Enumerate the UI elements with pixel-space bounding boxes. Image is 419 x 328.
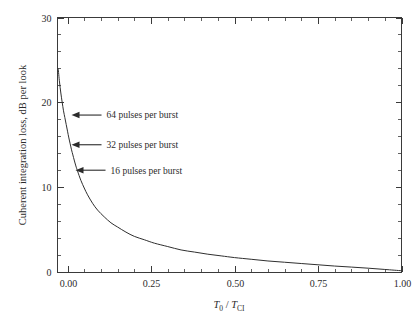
figure-container: 0.000.250.500.751.00 0102030 64 pulses p…	[0, 0, 419, 328]
annotation-label: 64 pulses per burst	[107, 110, 179, 120]
x-tick-label: 0.00	[60, 278, 78, 289]
coherent-integration-loss-chart: 0.000.250.500.751.00 0102030 64 pulses p…	[0, 0, 419, 328]
annotation-label: 32 pulses per burst	[107, 140, 179, 150]
x-tick-label: 0.25	[143, 278, 161, 289]
x-axis-title-separator: /	[223, 299, 231, 310]
annotation-label: 16 pulses per burst	[111, 166, 183, 176]
y-tick-label: 30	[42, 13, 52, 24]
y-tick-label: 20	[42, 97, 52, 108]
x-tick-label: 1.00	[394, 278, 412, 289]
x-tick-label: 0.50	[227, 278, 245, 289]
y-tick-label: 10	[42, 182, 52, 193]
x-tick-label: 0.75	[310, 278, 328, 289]
y-axis-title: Cuherent integration loss, dB per look	[17, 64, 28, 225]
y-tick-label: 0	[47, 267, 52, 278]
x-axis-title-denominator-subscript: CI	[237, 304, 245, 313]
